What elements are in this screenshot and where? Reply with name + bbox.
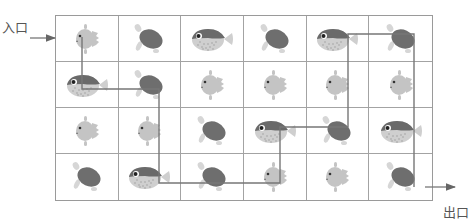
grid-cell [181, 62, 244, 108]
grid-cell [244, 154, 307, 200]
sunfish-icon [258, 160, 292, 194]
grid-cell [307, 154, 370, 200]
sunfish-icon [258, 68, 292, 102]
grid-cell [369, 108, 432, 154]
sunfish-icon [320, 68, 354, 102]
grid-cell [119, 154, 182, 200]
turtle-icon [381, 21, 421, 57]
grid-cell [369, 154, 432, 200]
grid-cell [56, 108, 119, 154]
grid-cell [244, 16, 307, 62]
grid-cell [369, 16, 432, 62]
sunfish-icon [195, 68, 229, 102]
grid-cell [307, 16, 370, 62]
pufferfish-icon [125, 161, 173, 193]
turtle-icon [192, 113, 232, 149]
grid-cell [56, 154, 119, 200]
entrance-label: 入口 [2, 17, 28, 36]
sunfish-icon [70, 22, 104, 56]
sunfish-icon [320, 160, 354, 194]
grid-cell [56, 62, 119, 108]
grid-cell [119, 16, 182, 62]
turtle-icon [67, 159, 107, 195]
pufferfish-icon [63, 69, 111, 101]
grid-cell [307, 108, 370, 154]
pufferfish-icon [188, 23, 236, 55]
grid-cell [119, 108, 182, 154]
sunfish-icon [384, 68, 418, 102]
turtle-icon [192, 159, 232, 195]
grid-cell [181, 108, 244, 154]
pufferfish-icon [251, 115, 299, 147]
turtle-icon [317, 113, 357, 149]
sunfish-icon [70, 114, 104, 148]
exit-label: 出口 [443, 202, 469, 221]
turtle-icon [381, 159, 421, 195]
grid-cell [244, 108, 307, 154]
grid-cell [119, 62, 182, 108]
turtle-icon [255, 21, 295, 57]
grid-cell [307, 62, 370, 108]
grid-cell [244, 62, 307, 108]
grid-cell [56, 16, 119, 62]
maze-diagram: 入口 出口 [0, 0, 474, 224]
maze-grid [55, 15, 433, 201]
grid-cell [369, 62, 432, 108]
turtle-icon [129, 21, 169, 57]
sunfish-icon [132, 114, 166, 148]
pufferfish-icon [377, 115, 425, 147]
grid-cell [181, 16, 244, 62]
turtle-icon [129, 67, 169, 103]
pufferfish-icon [313, 23, 361, 55]
grid-cell [181, 154, 244, 200]
